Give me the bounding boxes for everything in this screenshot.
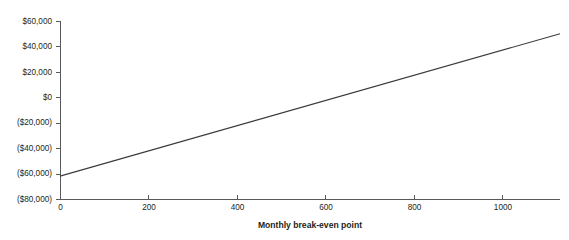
y-tick-label: $60,000 bbox=[22, 17, 52, 26]
x-tick-label: 800 bbox=[408, 203, 422, 212]
y-tick-label: ($20,000) bbox=[17, 118, 52, 127]
y-tick-label: $20,000 bbox=[22, 68, 52, 77]
x-axis-tick-labels: 02004006008001000 bbox=[58, 203, 512, 212]
chart-container: $60,000$40,000$20,000$0($20,000)($40,000… bbox=[0, 0, 569, 240]
y-tick-label: ($80,000) bbox=[17, 195, 52, 204]
y-axis-tick-labels: $60,000$40,000$20,000$0($20,000)($40,000… bbox=[17, 17, 53, 204]
y-tick-label: $40,000 bbox=[22, 42, 52, 51]
y-axis-ticks bbox=[56, 22, 60, 200]
x-axis-title: Monthly break-even point bbox=[258, 220, 362, 230]
data-series-group bbox=[60, 34, 560, 176]
y-tick-label: $0 bbox=[43, 93, 53, 102]
x-axis-ticks bbox=[61, 195, 503, 199]
x-tick-label: 0 bbox=[58, 203, 63, 212]
x-tick-label: 200 bbox=[142, 203, 156, 212]
x-tick-label: 600 bbox=[319, 203, 333, 212]
x-tick-label: 1000 bbox=[494, 203, 513, 212]
data-series-line bbox=[60, 34, 560, 176]
x-tick-label: 400 bbox=[231, 203, 245, 212]
y-tick-label: ($60,000) bbox=[17, 169, 52, 178]
y-tick-label: ($40,000) bbox=[17, 144, 52, 153]
line-chart: $60,000$40,000$20,000$0($20,000)($40,000… bbox=[0, 0, 569, 240]
